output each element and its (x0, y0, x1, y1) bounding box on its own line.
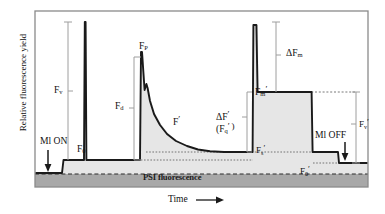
y-axis-label: Relative fluorescence yield (19, 3, 28, 163)
fm-prime-label: Fm′ (255, 85, 267, 98)
fd-label: Fd (115, 101, 124, 112)
f0-prime-label: F0′ (300, 165, 310, 177)
f-prime-label: F′ (173, 115, 180, 126)
psi-fluorescence-label: PSI fluorescence (143, 172, 201, 182)
f0-label: F0 (77, 144, 86, 155)
fluorescence-induction-figure: Relative fluorescence yield Time PSI flu… (0, 0, 385, 214)
light-on-label: Ml ON (40, 136, 67, 146)
fs-prime-label: Fs′ (256, 144, 265, 156)
delta-fm-label: ΔFm (286, 48, 303, 59)
fp-label: FP (139, 41, 148, 52)
x-axis-label: Time (168, 195, 188, 205)
fq-prime-label: (Fq′ ) (216, 122, 234, 135)
light-off-label: Ml OFF (315, 130, 346, 140)
time-axis-arrow (196, 197, 224, 204)
fv-label: Fv (54, 85, 63, 96)
delta-f-prime-label: ΔF′ (216, 110, 229, 121)
psi-fluorescence-band (35, 174, 368, 187)
fv-prime-label: Fv′ (359, 118, 369, 130)
